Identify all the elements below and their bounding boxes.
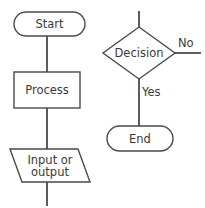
edge-label-yes: Yes xyxy=(141,85,161,99)
node-io-label-line2: output xyxy=(31,165,69,179)
node-process-label: Process xyxy=(25,83,69,97)
node-end-label: End xyxy=(129,132,151,146)
flowchart-svg: Start Process Input or output Decision N… xyxy=(0,0,205,208)
node-decision-label: Decision xyxy=(115,46,164,60)
edge-label-no: No xyxy=(178,36,194,50)
node-start-label: Start xyxy=(35,17,64,31)
flowchart-diagram: Start Process Input or output Decision N… xyxy=(0,0,205,208)
